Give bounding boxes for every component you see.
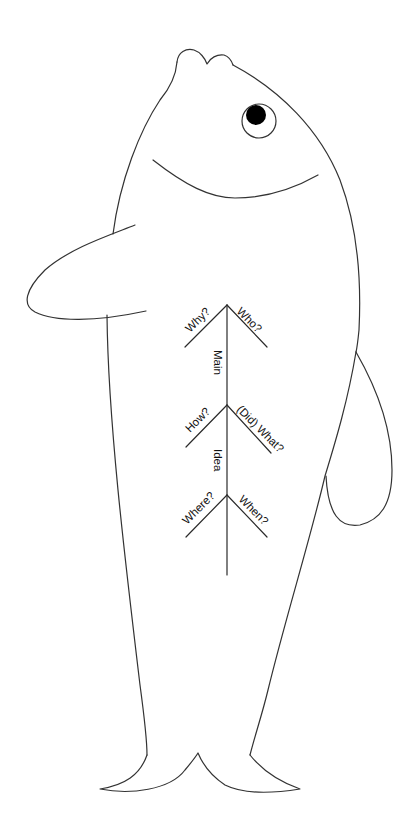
spine-label-main: Main xyxy=(212,350,224,375)
body-left-lower xyxy=(107,315,147,755)
head-bumps xyxy=(177,50,233,66)
mouth-curve xyxy=(153,160,318,198)
left-fin xyxy=(27,225,146,319)
spine-label-idea: Idea xyxy=(212,449,224,472)
label-where: Where? xyxy=(180,489,217,526)
fish-diagram: Why? Who? How? (Did) What? Where? When? … xyxy=(0,0,416,836)
body-right-lower xyxy=(250,352,356,755)
tail xyxy=(100,753,300,792)
eye xyxy=(242,104,276,138)
body-left-upper xyxy=(113,62,177,234)
label-who: Who? xyxy=(235,305,265,335)
label-why: Why? xyxy=(183,305,212,334)
pupil xyxy=(246,105,266,125)
label-how: How? xyxy=(183,405,212,434)
fish-body xyxy=(107,50,360,756)
label-did-what: (Did) What? xyxy=(235,403,287,455)
